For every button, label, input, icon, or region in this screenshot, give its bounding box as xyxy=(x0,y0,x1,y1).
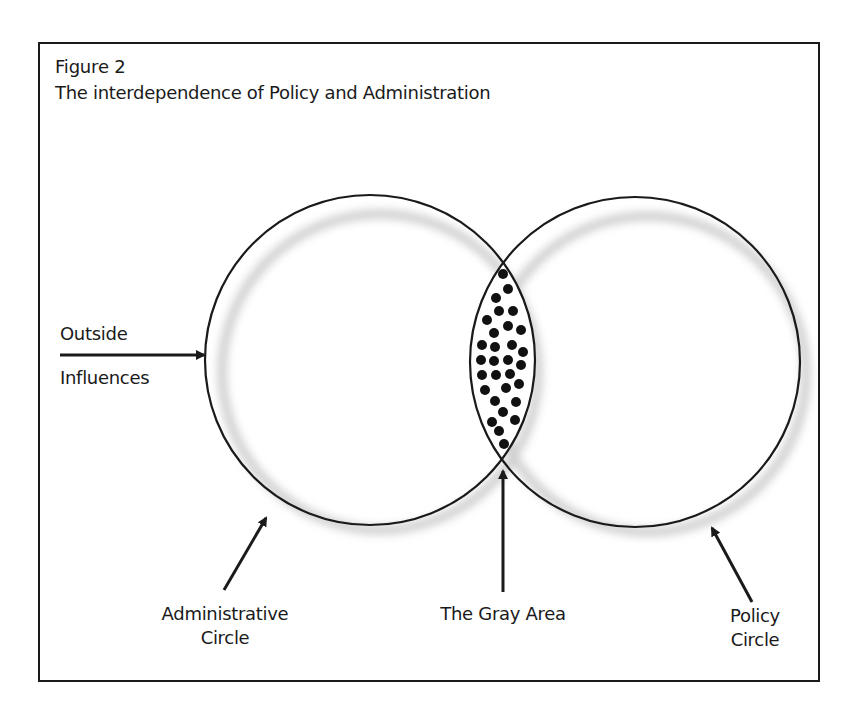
label-line: Policy xyxy=(700,604,810,628)
gray-area-label: The Gray Area xyxy=(403,602,603,626)
label-line: The Gray Area xyxy=(403,602,603,626)
label-line: Outside xyxy=(60,322,127,346)
label-line: Administrative xyxy=(125,602,325,626)
policy-circle-label: Policy Circle xyxy=(700,604,810,652)
administrative-circle-label: Administrative Circle xyxy=(125,602,325,650)
label-line: Circle xyxy=(125,626,325,650)
label-line: Influences xyxy=(60,366,149,390)
label-line: Circle xyxy=(700,628,810,652)
outside-influences-label-line2: Influences xyxy=(60,366,149,390)
outside-influences-label: Outside xyxy=(60,322,127,346)
policy-circle-arrow xyxy=(712,528,752,602)
administrative-circle-arrow xyxy=(224,518,266,590)
